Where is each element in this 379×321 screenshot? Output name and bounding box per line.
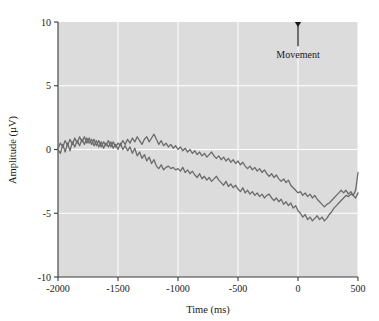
annotation-label-movement: Movement [276, 49, 320, 60]
x-tick-label: -2000 [46, 283, 69, 294]
y-tick-label: -10 [38, 272, 51, 283]
y-axis-title: Amplitude (µV) [7, 115, 19, 184]
x-tick-label: 500 [351, 283, 366, 294]
x-tick-label: 0 [296, 283, 301, 294]
x-tick-label: -1000 [166, 283, 189, 294]
x-tick-label: -1500 [106, 283, 129, 294]
y-tick-label: 0 [46, 144, 51, 155]
y-tick-label: 10 [41, 17, 51, 28]
x-axis-title: Time (ms) [186, 304, 230, 316]
eeg-readiness-potential-chart: -2000-1500-1000-5000500 -10-50510 Moveme… [0, 0, 379, 321]
y-tick-label: 5 [46, 80, 51, 91]
x-tick-label: -500 [229, 283, 247, 294]
chart-figure: -2000-1500-1000-5000500 -10-50510 Moveme… [0, 0, 379, 321]
y-tick-label: -5 [43, 208, 51, 219]
